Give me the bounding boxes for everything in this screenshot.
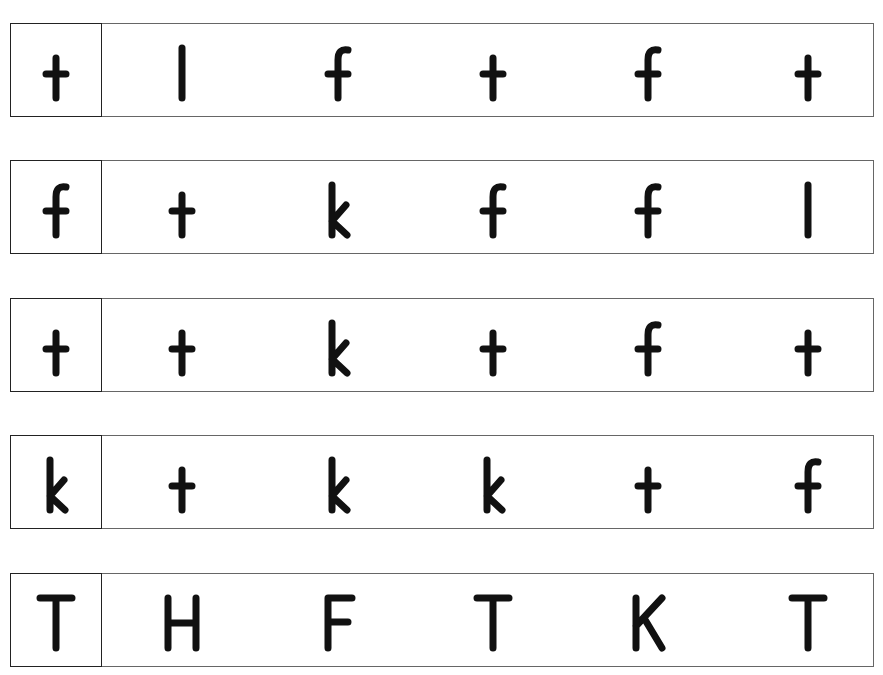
choice-letter[interactable]: [618, 161, 678, 253]
choice-letter[interactable]: [778, 436, 838, 528]
choice-letter[interactable]: [778, 24, 838, 116]
target-letter: [26, 436, 86, 528]
choice-letter[interactable]: [618, 299, 678, 391]
choice-letter[interactable]: [308, 436, 368, 528]
target-letter: [26, 574, 86, 666]
choice-letter[interactable]: [308, 161, 368, 253]
choice-letter[interactable]: [463, 24, 523, 116]
choice-letter[interactable]: [463, 574, 523, 666]
choice-letter[interactable]: [778, 574, 838, 666]
choice-letter[interactable]: [308, 574, 368, 666]
choice-letter[interactable]: [308, 24, 368, 116]
choice-letter[interactable]: [152, 436, 212, 528]
worksheet-row: [10, 298, 874, 392]
choice-letter[interactable]: [152, 161, 212, 253]
target-letter: [26, 299, 86, 391]
choice-letter[interactable]: [778, 299, 838, 391]
choice-letter[interactable]: [463, 161, 523, 253]
target-letter: [26, 24, 86, 116]
choice-letter[interactable]: [152, 574, 212, 666]
choice-letter[interactable]: [618, 574, 678, 666]
choice-letter[interactable]: [618, 24, 678, 116]
choice-letter[interactable]: [778, 161, 838, 253]
choice-letter[interactable]: [463, 436, 523, 528]
worksheet-row: [10, 23, 874, 117]
worksheet-row: [10, 573, 874, 667]
choice-letter[interactable]: [152, 24, 212, 116]
choice-letter[interactable]: [463, 299, 523, 391]
choice-letter[interactable]: [618, 436, 678, 528]
target-letter: [26, 161, 86, 253]
choice-letter[interactable]: [152, 299, 212, 391]
worksheet-row: [10, 435, 874, 529]
worksheet-row: [10, 160, 874, 254]
choice-letter[interactable]: [308, 299, 368, 391]
